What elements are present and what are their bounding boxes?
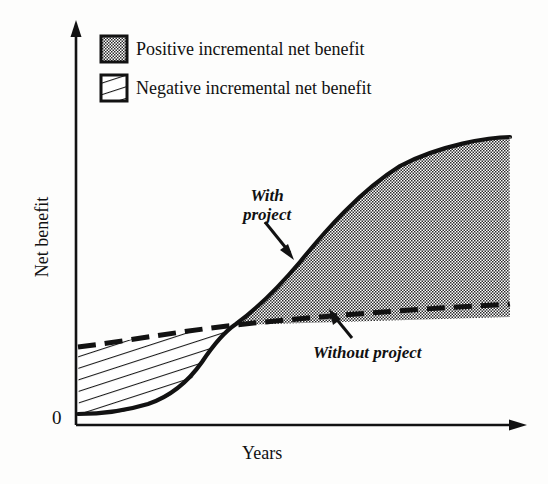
y-axis-label: Net benefit [33,177,51,297]
legend-label-negative: Negative incremental net benefit [136,79,371,97]
legend-swatch-negative [101,75,127,101]
legend-swatch-positive [101,36,127,62]
with-project-arrow [265,222,294,260]
x-axis-arrowhead [509,420,527,431]
legend [101,36,127,101]
chart-figure: Positive incremental net benefit Negativ… [0,0,548,484]
with-project-annotation: Withproject [243,186,291,224]
without-project-annotation: Without project [313,344,421,361]
legend-label-positive: Positive incremental net benefit [136,40,364,58]
chart-canvas [0,0,548,484]
origin-label: 0 [52,408,62,427]
x-axis-label: Years [242,444,282,462]
y-axis-arrowhead [71,20,82,37]
x-axis [76,420,527,431]
